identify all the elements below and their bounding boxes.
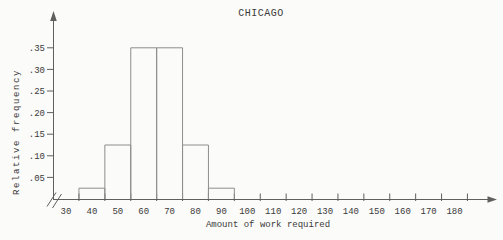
x-axis-arrow [488,196,498,203]
histogram-bar [208,188,234,199]
x-tick-label: 90 [216,207,227,217]
x-tick-label: 150 [369,207,385,217]
y-tick-label: .25 [29,87,45,97]
histogram-bar [79,188,105,199]
y-tick-label: .15 [29,130,45,140]
y-axis-title: Relative frequency [12,69,22,195]
x-tick-label: 40 [86,207,97,217]
x-tick-label: 180 [446,207,462,217]
x-axis-title: Amount of work required [206,220,330,230]
chart-title: CHICAGO [238,8,284,19]
histogram-bar [131,48,157,199]
y-tick-label: .35 [29,44,45,54]
y-tick-label: .20 [29,109,45,119]
x-tick-label: 170 [420,207,436,217]
y-tick-label: .10 [29,152,45,162]
x-tick-label: 140 [343,207,359,217]
histogram-figure: .05.10.15.20.25.30.353040506070809010011… [0,0,503,240]
x-tick-label: 50 [112,207,123,217]
x-tick-label: 160 [395,207,411,217]
x-tick-label: 30 [61,207,72,217]
x-tick-label: 130 [317,207,333,217]
histogram-plot: .05.10.15.20.25.30.353040506070809010011… [0,0,503,240]
y-axis-arrow [50,11,57,21]
histogram-bar [183,145,209,199]
histogram-bar [157,48,183,199]
y-tick-label: .30 [29,66,45,76]
x-tick-label: 80 [190,207,201,217]
x-tick-label: 100 [239,207,255,217]
x-tick-label: 120 [291,207,307,217]
x-tick-label: 70 [164,207,175,217]
x-tick-label: 60 [138,207,149,217]
x-tick-label: 110 [265,207,281,217]
histogram-bar [105,145,131,199]
y-tick-label: .05 [29,174,45,184]
